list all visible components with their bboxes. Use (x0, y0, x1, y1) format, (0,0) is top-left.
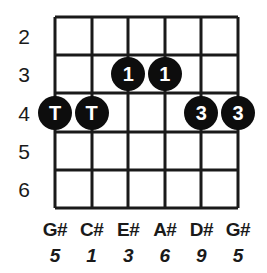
fret-dot-string2-fret4[interactable]: T (75, 96, 109, 130)
finger-dot-label: T (49, 102, 61, 122)
fret-number-2: 2 (0, 26, 48, 47)
finger-dot-label: 3 (232, 102, 243, 122)
fret-number-3: 3 (0, 64, 48, 85)
fret-dot-string1-fret4[interactable]: T (38, 96, 72, 130)
string-line-4 (163, 17, 166, 208)
fret-dot-string6-fret4[interactable]: 3 (221, 96, 255, 130)
fret-number-6: 6 (0, 178, 48, 199)
finger-dot-label: T (85, 102, 97, 122)
finger-dot-label: 1 (159, 64, 170, 84)
fret-dot-string3-fret3[interactable]: 1 (111, 57, 145, 91)
fret-dot-string4-fret3[interactable]: 1 (148, 57, 182, 91)
fret-dot-string5-fret4[interactable]: 3 (184, 96, 218, 130)
fret-number-5: 5 (0, 140, 48, 161)
note-label-string-6: G# (213, 220, 263, 239)
fret-line-4 (55, 168, 238, 171)
fret-line-3 (55, 130, 238, 133)
fret-line-5 (55, 207, 238, 210)
fret-line-2 (55, 92, 238, 95)
interval-label-string-6: 5 (213, 246, 263, 265)
string-line-3 (127, 17, 130, 208)
finger-dot-label: 1 (123, 64, 134, 84)
chord-diagram: 23456 TT1133 G#C#E#A#D#G# 513695 (0, 0, 267, 273)
nut-line (55, 16, 238, 19)
finger-dot-label: 3 (196, 102, 207, 122)
fret-line-1 (55, 54, 238, 57)
